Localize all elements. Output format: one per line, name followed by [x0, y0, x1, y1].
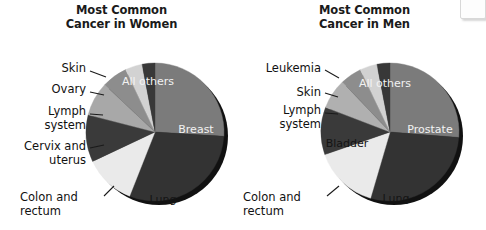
slice-label-all-others: All others [359, 77, 411, 90]
callout-skin: Skin [251, 86, 321, 100]
callout-colon-and-rectum: Colon and rectum [20, 191, 100, 218]
callout-lymph-system: Lymph system [243, 104, 321, 131]
slice-label-bladder: Bladder [326, 137, 369, 150]
callout-lymph-system: Lymph system [2, 105, 86, 132]
slice-label-prostate: Prostate [407, 123, 453, 136]
slice-label-all-others: All others [122, 75, 174, 88]
callout-colon-and-rectum-leader-line [104, 186, 114, 196]
callout-leukemia: Leukemia [243, 62, 321, 76]
chart-panel-men: Most Common Cancer in Men All othersPros… [243, 0, 486, 230]
slice-label-breast: Breast [178, 123, 214, 136]
callout-leukemia-leader-line [325, 70, 339, 78]
callout-skin: Skin [20, 62, 86, 76]
chart-panel-women: Most Common Cancer in Women All othersBr… [0, 0, 243, 230]
callout-colon-and-rectum-leader-line [327, 186, 339, 196]
callout-colon-and-rectum: Colon and rectum [243, 191, 323, 218]
cancer-pie-charts-figure: Most Common Cancer in Women All othersBr… [0, 0, 486, 230]
callout-cervix-and-uterus: Cervix and uterus [0, 140, 86, 167]
slice-label-lung: Lung [383, 192, 410, 205]
slice-label-lung: Lung [150, 193, 177, 206]
callout-ovary: Ovary [10, 83, 86, 97]
callout-skin-leader-line [90, 71, 106, 77]
corner-box [460, 0, 486, 19]
